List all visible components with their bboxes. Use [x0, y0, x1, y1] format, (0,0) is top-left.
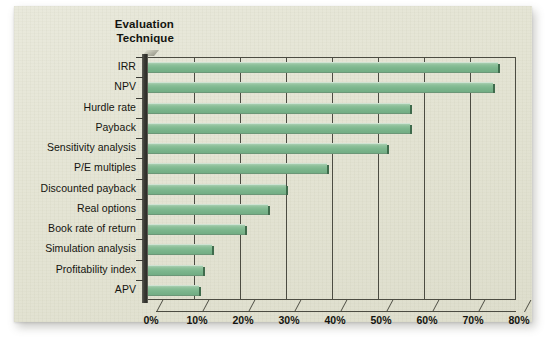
value-label-30%: 30% — [266, 314, 312, 326]
bar-profitability-index[interactable] — [148, 265, 203, 276]
bar-row — [148, 240, 515, 260]
category-tick — [136, 118, 143, 119]
category-label-sensitivity-analysis: Sensitivity analysis — [0, 141, 136, 153]
category-label-book-rate-of-return: Book rate of return — [0, 222, 136, 234]
category-label-irr: IRR — [0, 60, 136, 72]
category-label-apv: APV — [0, 283, 136, 295]
category-label-real-options: Real options — [0, 202, 136, 214]
value-tick-80% — [524, 300, 531, 312]
bar-row — [148, 58, 515, 78]
bar-row — [148, 281, 515, 301]
value-label-20%: 20% — [220, 314, 266, 326]
category-tick — [136, 77, 143, 78]
bar-hurdle-rate[interactable] — [148, 103, 410, 114]
value-label-10%: 10% — [174, 314, 220, 326]
bar-row — [148, 261, 515, 281]
bar-row — [148, 139, 515, 159]
bar-payback[interactable] — [148, 123, 410, 134]
bar-row — [148, 119, 515, 139]
bar-simulation-analysis[interactable] — [148, 244, 212, 255]
axis-title-line-2: Technique — [54, 32, 174, 46]
axis-title-line-1: Evaluation — [54, 18, 174, 32]
value-label-60%: 60% — [404, 314, 450, 326]
bar-row — [148, 180, 515, 200]
chart-card: Evaluation Technique IRRNPVHurdle ratePa… — [14, 6, 532, 322]
bar-row — [148, 159, 515, 179]
category-tick — [136, 239, 143, 240]
bar-discounted-payback[interactable] — [148, 184, 286, 195]
axis-title: Evaluation Technique — [54, 18, 174, 45]
value-label-70%: 70% — [450, 314, 496, 326]
bar-row — [148, 78, 515, 98]
bar-real-options[interactable] — [148, 204, 268, 215]
value-axis-line — [156, 311, 516, 312]
category-tick — [136, 98, 143, 99]
bar-sensitivity-analysis[interactable] — [148, 143, 387, 154]
category-label-payback: Payback — [0, 121, 136, 133]
category-label-npv: NPV — [0, 80, 136, 92]
value-label-40%: 40% — [312, 314, 358, 326]
value-label-80%: 80% — [496, 314, 542, 326]
value-label-50%: 50% — [358, 314, 404, 326]
plot-area — [148, 57, 516, 300]
bar-row — [148, 99, 515, 119]
category-tick — [136, 280, 143, 281]
category-tick — [136, 57, 143, 58]
category-label-profitability-index: Profitability index — [0, 263, 136, 275]
category-tick — [136, 179, 143, 180]
bar-row — [148, 220, 515, 240]
bar-row — [148, 200, 515, 220]
value-axis: 0%10%20%30%40%50%60%70%80% — [148, 300, 516, 314]
category-tick — [136, 260, 143, 261]
category-tick — [136, 158, 143, 159]
category-label-hurdle-rate: Hurdle rate — [0, 101, 136, 113]
bar-apv[interactable] — [148, 285, 199, 296]
category-tick — [136, 219, 143, 220]
category-label-simulation-analysis: Simulation analysis — [0, 242, 136, 254]
category-label-p-e-multiples: P/E multiples — [0, 161, 136, 173]
category-tick — [136, 199, 143, 200]
bar-irr[interactable] — [148, 62, 498, 73]
category-axis-labels: IRRNPVHurdle ratePaybackSensitivity anal… — [0, 57, 136, 300]
bar-book-rate-of-return[interactable] — [148, 224, 245, 235]
value-label-0%: 0% — [128, 314, 174, 326]
category-tick — [136, 138, 143, 139]
bar-npv[interactable] — [148, 82, 493, 93]
bar-p-e-multiples[interactable] — [148, 163, 327, 174]
category-label-discounted-payback: Discounted payback — [0, 182, 136, 194]
